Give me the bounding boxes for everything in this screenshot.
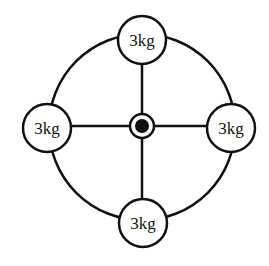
mass-bottom-label: 3kg (130, 214, 156, 233)
mass-top: 3kg (118, 16, 166, 64)
mass-right: 3kg (207, 104, 255, 152)
mass-right-label: 3kg (218, 119, 244, 138)
mass-top-label: 3kg (129, 31, 155, 50)
center-axle-icon (130, 114, 154, 138)
mass-left-label: 3kg (34, 119, 60, 138)
mass-bottom: 3kg (119, 199, 167, 247)
mass-ring-diagram: 3kg 3kg 3kg 3kg (0, 0, 269, 266)
mass-left: 3kg (23, 104, 71, 152)
